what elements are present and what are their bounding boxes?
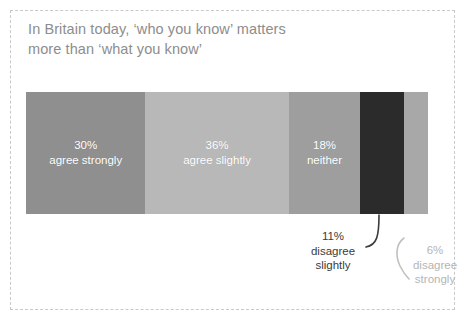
bar-segment-disagree-strongly[interactable] — [404, 92, 428, 214]
callout-disagree-slightly: 11% disagree slightly — [296, 229, 370, 273]
stacked-bar-chart: 30% agree strongly 36% agree slightly 18… — [26, 92, 428, 214]
bar-segment-agree-slightly[interactable]: 36% agree slightly — [145, 92, 288, 214]
bar-segment-agree-strongly[interactable]: 30% agree strongly — [26, 92, 145, 214]
callout-disagree-strongly: 6% disagree strongly — [404, 243, 466, 287]
bar-segment-label-agree-slightly: 36% agree slightly — [183, 138, 251, 168]
bar-segment-neither[interactable]: 18% neither — [289, 92, 361, 214]
chart-figure: In Britain today, ‘who you know’ matters… — [0, 0, 476, 326]
bar-segment-label-neither: 18% neither — [307, 138, 342, 168]
bar-segment-disagree-slightly[interactable] — [360, 92, 404, 214]
chart-title: In Britain today, ‘who you know’ matters… — [28, 19, 388, 59]
bar-segment-label-agree-strongly: 30% agree strongly — [49, 138, 122, 168]
